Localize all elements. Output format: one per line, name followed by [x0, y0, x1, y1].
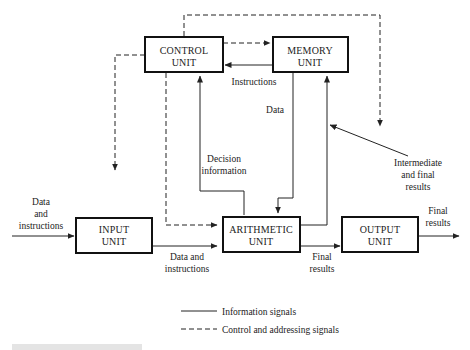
control-unit-label-2: UNIT: [172, 57, 197, 68]
data-in-label-2: and: [34, 209, 48, 219]
final-results-mid-label: Final: [312, 252, 332, 262]
output-unit-label: OUTPUT: [360, 224, 401, 235]
control-unit-label: CONTROL: [160, 45, 209, 56]
control-to-input-line: [115, 55, 145, 170]
arithmetic-unit-box: ARITHMETIC UNIT: [223, 217, 300, 252]
final-results-mid-label-2: results: [310, 264, 335, 274]
legend-solid-label: Information signals: [222, 307, 296, 317]
intermediate-label-3: results: [406, 182, 431, 192]
intermediate-label: Intermediate: [394, 158, 442, 168]
memory-unit-label-2: UNIT: [298, 57, 323, 68]
arithmetic-to-control-line: [200, 76, 244, 215]
intermediate-pointer-line: [330, 125, 408, 156]
decision-label-2: information: [202, 166, 247, 176]
data-instructions-label-2: instructions: [165, 264, 210, 274]
control-unit-box: CONTROL UNIT: [145, 37, 223, 72]
computer-block-diagram: CONTROL UNIT MEMORY UNIT INPUT UNIT ARIT…: [0, 0, 470, 350]
input-unit-label-2: UNIT: [102, 236, 127, 247]
clipped-caption: [12, 344, 142, 350]
final-results-out-label-2: results: [426, 218, 451, 228]
intermediate-label-2: and final: [401, 170, 435, 180]
output-unit-box: OUTPUT UNIT: [342, 217, 418, 252]
arithmetic-to-memory-line: [300, 76, 327, 225]
control-to-arithmetic-line: [166, 73, 217, 225]
legend-dashed-label: Control and addressing signals: [222, 325, 339, 335]
memory-unit-label: MEMORY: [287, 45, 333, 56]
memory-unit-box: MEMORY UNIT: [273, 37, 348, 72]
data-instructions-label: Data and: [170, 252, 204, 262]
instructions-label: Instructions: [232, 77, 277, 87]
data-in-label-3: instructions: [19, 221, 64, 231]
input-unit-label: INPUT: [99, 224, 129, 235]
legend: Information signals Control and addressi…: [181, 307, 339, 335]
data-label: Data: [266, 105, 285, 115]
arithmetic-unit-label-2: UNIT: [249, 236, 274, 247]
final-results-out-label: Final: [428, 206, 448, 216]
input-unit-box: INPUT UNIT: [76, 218, 152, 253]
decision-label: Decision: [207, 154, 241, 164]
data-in-label: Data: [32, 197, 51, 207]
memory-to-arithmetic-line: [278, 73, 293, 213]
output-unit-label-2: UNIT: [368, 236, 393, 247]
arithmetic-unit-label: ARITHMETIC: [229, 224, 293, 235]
